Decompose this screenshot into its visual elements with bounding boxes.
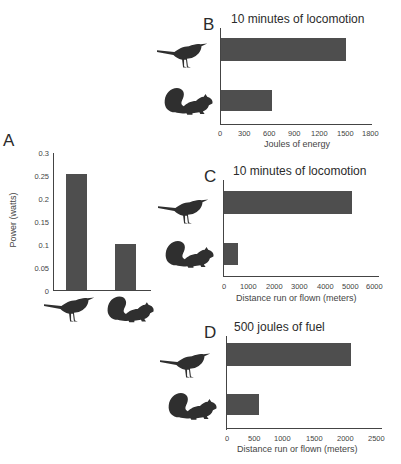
panel-d-xtick: 1000 bbox=[274, 434, 291, 443]
squirrel-silhouette-icon bbox=[163, 86, 215, 116]
panel-c-xtick: 4000 bbox=[317, 282, 334, 291]
panel-d-bar-bird bbox=[227, 343, 351, 366]
panel-d-xtick: 1500 bbox=[306, 434, 323, 443]
panel-c-xtick: 2000 bbox=[266, 282, 283, 291]
panel-c-xtick: 3000 bbox=[291, 282, 308, 291]
panel-a-ytick: 0.15 bbox=[34, 218, 49, 227]
panel-b-xtick: 1200 bbox=[311, 129, 328, 138]
panel-c-x-axis bbox=[223, 276, 379, 277]
panel-b-bar-squirrel bbox=[221, 90, 272, 111]
panel-a-letter: A bbox=[3, 131, 14, 151]
panel-a-ytick: 0.25 bbox=[34, 172, 49, 181]
panel-b-xtick: 0 bbox=[218, 129, 222, 138]
panel-b-x-axis bbox=[220, 124, 372, 125]
panel-d-xtick: 500 bbox=[248, 434, 261, 443]
panel-c-letter: C bbox=[204, 167, 216, 187]
panel-b-title: 10 minutes of locomotion bbox=[231, 12, 364, 26]
panel-a-bar-squirrel bbox=[115, 244, 136, 290]
panel-d-x-axis-label: Distance run or flown (meters) bbox=[237, 444, 358, 454]
panel-b-xtick: 1500 bbox=[337, 129, 354, 138]
squirrel-silhouette-icon bbox=[106, 294, 156, 324]
panel-b-xtick: 900 bbox=[288, 129, 301, 138]
panel-d-bar-squirrel bbox=[227, 394, 259, 415]
squirrel-silhouette-icon bbox=[167, 390, 219, 422]
panel-c-xtick: 0 bbox=[222, 282, 226, 291]
panel-a-ytick: 0.2 bbox=[39, 195, 49, 204]
bird-silhouette-icon bbox=[44, 294, 102, 324]
panel-a-bar-bird bbox=[66, 174, 87, 290]
panel-c-bar-bird bbox=[224, 191, 352, 214]
panel-b-xtick: 300 bbox=[238, 129, 251, 138]
panel-a-y-axis-label: Power (watts) bbox=[8, 192, 18, 247]
panel-b-letter: B bbox=[203, 15, 214, 35]
bird-silhouette-icon bbox=[160, 350, 218, 380]
bird-silhouette-icon bbox=[158, 196, 216, 226]
panel-d-xtick: 2000 bbox=[337, 434, 354, 443]
panel-b-xtick: 600 bbox=[263, 129, 276, 138]
panel-c-x-axis-label: Distance run or flown (meters) bbox=[236, 293, 357, 303]
panel-c-bar-squirrel bbox=[224, 243, 238, 265]
squirrel-silhouette-icon bbox=[164, 238, 216, 270]
panel-b-bar-bird bbox=[221, 38, 346, 61]
panel-a-y-axis bbox=[53, 153, 54, 291]
panel-c-xtick: 6000 bbox=[366, 282, 383, 291]
bird-silhouette-icon bbox=[157, 40, 215, 70]
panel-a-ytick: 0.1 bbox=[39, 241, 49, 250]
panel-d-xtick: 2500 bbox=[368, 434, 385, 443]
panel-a-ytick: 0.3 bbox=[39, 149, 49, 158]
panel-b-xtick: 1800 bbox=[362, 129, 379, 138]
panel-d-letter: D bbox=[204, 323, 216, 343]
panel-a-x-axis bbox=[53, 290, 151, 291]
panel-d-xtick: 0 bbox=[225, 434, 229, 443]
panel-d-title: 500 joules of fuel bbox=[234, 320, 325, 334]
panel-c-xtick: 5000 bbox=[342, 282, 359, 291]
panel-c-title: 10 minutes of locomotion bbox=[233, 164, 366, 178]
panel-a-ytick: 0.05 bbox=[34, 264, 49, 273]
panel-b-x-axis-label: Joules of energy bbox=[264, 139, 330, 149]
panel-d-x-axis bbox=[226, 428, 382, 429]
panel-c-xtick: 1000 bbox=[240, 282, 257, 291]
